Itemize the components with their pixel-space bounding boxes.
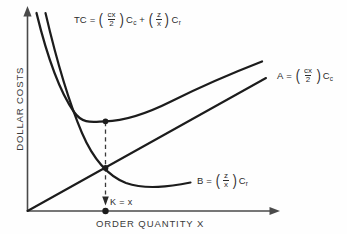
b-frac-numerator: z: [223, 172, 229, 180]
b-frac-denominator: x: [223, 180, 229, 189]
a-coefficient: Cc: [323, 71, 333, 81]
tc-coef1-subscript: c: [133, 20, 136, 27]
paren-close-icon: ): [165, 13, 169, 27]
eoq-pointer-arrowhead: [102, 197, 109, 206]
ab-intersection-dot: [103, 165, 109, 171]
b-equals: =: [206, 176, 212, 186]
y-axis-arrowhead: [23, 6, 31, 17]
curve-label-b: B = ( z x ) Cr: [197, 172, 248, 190]
tc-plus: +: [139, 15, 145, 25]
tc-fraction-1: cx 2: [105, 11, 117, 29]
tc-name: TC: [74, 15, 87, 25]
paren-close-icon: ): [316, 69, 320, 83]
tc-coef1-base: C: [126, 15, 133, 25]
y-axis-title: DOLLAR COSTS: [15, 63, 25, 155]
paren-open-icon: (: [296, 69, 300, 83]
tc-equals: =: [90, 15, 96, 25]
b-name: B: [197, 176, 203, 186]
tc-coef2-subscript: r: [179, 20, 181, 27]
tc-frac2-denominator: x: [156, 19, 162, 28]
paren-close-icon: ): [232, 174, 236, 188]
curve-label-tc: TC = ( cx 2 ) Cc + ( z x ) Cr: [74, 11, 181, 29]
tc-minimum-dot: [103, 118, 109, 124]
a-coef-base: C: [323, 71, 330, 81]
tc-frac1-denominator: 2: [108, 19, 114, 28]
b-coef-subscript: r: [246, 181, 248, 188]
tc-frac1-numerator: cx: [106, 11, 116, 19]
b-coefficient: Cr: [239, 176, 248, 186]
eoq-cost-diagram: TC = ( cx 2 ) Cc + ( z x ) Cr A = ( cx 2…: [0, 0, 347, 234]
a-coef-subscript: c: [330, 76, 333, 83]
b-fraction: z x: [222, 172, 230, 190]
a-equals: =: [286, 71, 292, 81]
a-frac-denominator: 2: [305, 75, 311, 84]
tc-coefficient-1: Cc: [126, 15, 136, 25]
curve-tc-line: [37, 13, 263, 122]
a-name: A: [277, 71, 283, 81]
paren-open-icon: (: [216, 174, 220, 188]
paren-open-icon: (: [99, 13, 103, 27]
tc-frac2-numerator: z: [156, 11, 162, 19]
eoq-axis-dot: [102, 208, 108, 214]
tc-coef2-base: C: [172, 15, 179, 25]
curve-label-a: A = ( cx 2 ) Cc: [277, 67, 333, 85]
a-fraction: cx 2: [302, 67, 314, 85]
b-coef-base: C: [239, 176, 246, 186]
eoq-annotation-label: K = x: [110, 198, 133, 207]
tc-fraction-2: z x: [155, 11, 163, 29]
plot-area: [0, 0, 347, 234]
x-axis-arrowhead: [270, 207, 281, 215]
tc-coefficient-2: Cr: [172, 15, 181, 25]
curve-a-line: [28, 78, 267, 211]
paren-close-icon: ): [120, 13, 124, 27]
x-axis-title: ORDER QUANTITY X: [96, 219, 204, 229]
a-frac-numerator: cx: [303, 67, 313, 75]
paren-open-icon: (: [149, 13, 153, 27]
